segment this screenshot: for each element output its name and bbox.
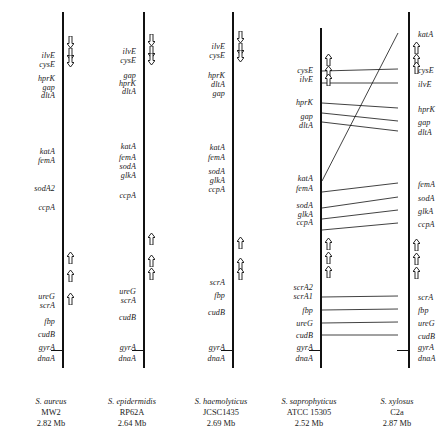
- connector-scra: [322, 296, 398, 297]
- gene-label-scra: scrA: [91, 297, 136, 306]
- connector-ccpa: [322, 223, 398, 230]
- gene-label-gap: gap: [180, 90, 225, 99]
- rrna-operon-arrow-up: [413, 253, 420, 265]
- rrna-operon-arrow-up: [148, 233, 155, 245]
- gene-label-scra: scrA: [418, 294, 439, 303]
- gene-label-dnaa: dnaA: [268, 355, 313, 364]
- gene-label-dlta: dltA: [268, 122, 313, 131]
- gene-label-soda: sodA: [418, 195, 439, 204]
- gene-label-cyse: cysE: [418, 67, 439, 76]
- rrna-operon-arrow-down: [237, 50, 244, 62]
- gene-label-ureg: ureG: [418, 320, 439, 329]
- connector-cyse: [322, 69, 398, 71]
- rrna-operon-arrow-up: [413, 267, 420, 279]
- gene-label-fema: femA: [180, 154, 225, 163]
- species-name: S. xylosus: [342, 396, 439, 407]
- gene-tick: [397, 350, 408, 351]
- connector-gap: [322, 113, 398, 121]
- rrna-operon-arrow-up: [413, 42, 420, 54]
- gene-label-gap: gap: [418, 119, 439, 128]
- species-strain: C2a: [342, 407, 439, 418]
- rrna-operon-arrow-up: [148, 268, 155, 280]
- gene-label-fbp: fbp: [268, 307, 313, 316]
- gene-label-scra1: scrA1: [268, 293, 313, 302]
- rrna-operon-arrow-up: [148, 255, 155, 267]
- gene-label-cudb: cudB: [418, 333, 439, 342]
- connector-hprk: [322, 103, 398, 108]
- gene-label-dlta: dltA: [91, 88, 136, 97]
- genome-column-sxylosus: katAcysEilvEhprKgapdltAfemAsodAglkAccpAs…: [0, 0, 90, 443]
- gene-label-ccpa: ccpA: [180, 186, 225, 195]
- rrna-operon-arrow-up: [413, 62, 420, 74]
- gene-label-cudb: cudB: [268, 332, 313, 341]
- rrna-operon-arrow-up: [325, 238, 332, 250]
- gene-label-ccpa: ccpA: [91, 192, 136, 201]
- connector-ureg: [322, 322, 398, 323]
- connector-fbp: [322, 309, 398, 310]
- rrna-operon-arrow-down: [237, 31, 244, 43]
- connector-fema: [322, 183, 398, 192]
- gene-label-gyra: gyrA: [91, 344, 136, 353]
- connector-dlta: [322, 122, 398, 131]
- gene-label-ccpa: ccpA: [418, 221, 439, 230]
- gene-label-gyra: gyrA: [418, 344, 439, 353]
- gene-label-fema: femA: [418, 181, 439, 190]
- gene-label-dnaa: dnaA: [91, 355, 136, 364]
- connector-glka: [322, 210, 398, 219]
- gene-label-kata: katA: [91, 143, 136, 152]
- gene-label-hprk: hprK: [268, 99, 313, 108]
- gene-label-ilve: ilvE: [268, 76, 313, 85]
- gene-label-hprk: hprK: [418, 106, 439, 115]
- connector-soda: [322, 197, 398, 208]
- gene-label-kata: katA: [418, 31, 439, 40]
- rrna-operon-arrow-up: [325, 266, 332, 278]
- chromosome-line: [320, 28, 322, 368]
- gene-label-ccpa: ccpA: [268, 219, 313, 228]
- gene-label-dlta: dltA: [418, 129, 439, 138]
- gene-label-kata: katA: [180, 144, 225, 153]
- chromosome-line: [143, 12, 145, 368]
- gene-label-gyra: gyrA: [180, 344, 225, 353]
- connector-kata: [322, 33, 398, 181]
- gene-label-glka: glkA: [91, 172, 136, 181]
- rrna-operon-arrow-up: [413, 239, 420, 251]
- gene-label-dnaa: dnaA: [180, 355, 225, 364]
- gene-label-kata: katA: [268, 175, 313, 184]
- rrna-operon-arrow-up: [237, 268, 244, 280]
- gene-label-fema: femA: [268, 185, 313, 194]
- rrna-operon-arrow-up: [325, 74, 332, 86]
- rrna-operon-arrow-up: [325, 252, 332, 264]
- gene-label-gyra: gyrA: [268, 344, 313, 353]
- rrna-operon-arrow-down: [148, 34, 155, 46]
- gene-label-fbp: fbp: [180, 292, 225, 301]
- gene-label-ureg: ureG: [268, 320, 313, 329]
- genome-size: 2.87 Mb: [342, 418, 439, 429]
- gene-label-ilve: ilvE: [418, 81, 439, 90]
- gene-label-cudb: cudB: [91, 314, 136, 323]
- gene-label-cudb: cudB: [180, 309, 225, 318]
- gene-label-glka: glkA: [418, 208, 439, 217]
- rrna-operon-arrow-up: [237, 237, 244, 249]
- chromosome-line: [232, 12, 234, 368]
- rrna-operon-arrow-down: [148, 53, 155, 65]
- comparative-genome-map-figure: ilvEcysEhprKgapdltAkatAfemAsodA2ccpAureG…: [0, 0, 439, 443]
- gene-label-dnaa: dnaA: [418, 355, 439, 364]
- gene-label-fbp: fbp: [418, 307, 439, 316]
- gene-label-cyse: cysE: [180, 52, 225, 61]
- gene-label-cyse: cysE: [91, 57, 136, 66]
- chromosome-line: [408, 12, 410, 368]
- gene-label-scra: scrA: [180, 279, 225, 288]
- species-legend: S. xylosusC2a2.87 Mb: [342, 396, 439, 430]
- rrna-operon-arrow-up: [325, 54, 332, 66]
